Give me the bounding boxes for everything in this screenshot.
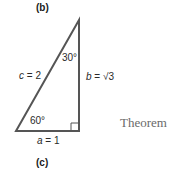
theorem-text: Theorem [120, 116, 167, 129]
vertical-leg-label: b = √3 [86, 72, 114, 82]
horizontal-leg-value: = 1 [43, 135, 60, 146]
vertical-leg-value: = √3 [92, 71, 114, 82]
figure-label-b: (b) [36, 3, 49, 13]
figure-label-c: (c) [36, 158, 48, 168]
hypotenuse-label: c = 2 [19, 71, 41, 81]
angle-30-label: 30° [62, 53, 77, 63]
angle-60-label: 60° [30, 116, 45, 126]
hypotenuse-value: = 2 [24, 70, 41, 81]
right-angle-marker [71, 123, 79, 131]
horizontal-leg-label: a = 1 [37, 136, 60, 146]
triangle-diagram [0, 0, 171, 173]
